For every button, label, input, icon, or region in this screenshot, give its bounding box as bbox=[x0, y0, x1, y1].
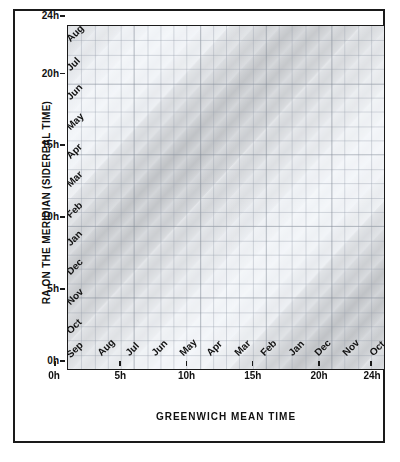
x-tick-mark-24h bbox=[370, 361, 372, 366]
y-tick-label-15h: 15h bbox=[42, 139, 59, 150]
month-band-heatmap bbox=[68, 26, 384, 369]
x-tick-label-15h: 15h bbox=[244, 370, 261, 381]
y-tick-mark-20h bbox=[60, 73, 65, 75]
x-axis-ticks: 0h5h10h15h20h24h bbox=[54, 361, 372, 391]
x-axis-title: GREENWICH MEAN TIME bbox=[67, 411, 385, 422]
x-tick-mark-0h bbox=[54, 361, 56, 366]
x-tick-label-24h: 24h bbox=[363, 370, 380, 381]
figure-frame: RA ON THE MERIDIAN (SIDEREAL TIME) 0h5h1… bbox=[13, 9, 385, 443]
x-tick-mark-20h bbox=[318, 361, 320, 366]
x-tick-label-20h: 20h bbox=[310, 370, 327, 381]
x-tick-mark-5h bbox=[119, 361, 121, 366]
x-tick-label-5h: 5h bbox=[114, 370, 126, 381]
y-tick-label-10h: 10h bbox=[42, 211, 59, 222]
x-tick-mark-15h bbox=[252, 361, 254, 366]
y-tick-mark-15h bbox=[60, 144, 65, 146]
y-tick-mark-10h bbox=[60, 216, 65, 218]
y-tick-mark-24h bbox=[60, 15, 65, 17]
x-tick-label-0h: 0h bbox=[48, 370, 60, 381]
y-tick-label-5h: 5h bbox=[47, 283, 59, 294]
y-tick-label-24h: 24h bbox=[42, 10, 59, 21]
y-axis-ticks: 0h5h10h15h20h24h bbox=[33, 11, 65, 462]
plot-area: SepOctNovDecJanFebMarAprMayJunJulAugAugJ… bbox=[67, 25, 385, 370]
x-tick-label-10h: 10h bbox=[178, 370, 195, 381]
y-tick-mark-5h bbox=[60, 288, 65, 290]
y-tick-label-20h: 20h bbox=[42, 68, 59, 79]
x-tick-mark-10h bbox=[186, 361, 188, 366]
